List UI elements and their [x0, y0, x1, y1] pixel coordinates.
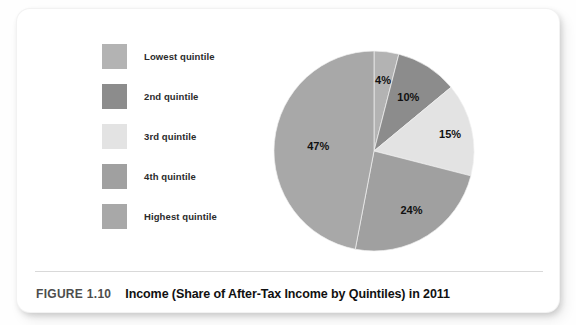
figure-caption: FIGURE 1.10 Income (Share of After-Tax I… [36, 281, 546, 307]
pie-slice-value-label: 24% [400, 204, 422, 216]
legend-swatch-icon [102, 44, 127, 69]
chart-area: Lowest quintile 2nd quintile 3rd quintil… [17, 9, 559, 267]
legend-item-4th-quintile[interactable]: 4th quintile [102, 156, 262, 196]
pie-slice-value-label: 4% [375, 74, 391, 86]
legend-item-2nd-quintile[interactable]: 2nd quintile [102, 76, 262, 116]
figure-page: Lowest quintile 2nd quintile 3rd quintil… [0, 0, 576, 325]
pie-slice-value-label: 10% [397, 91, 419, 103]
legend-swatch-icon [102, 84, 127, 109]
legend-item-lowest-quintile[interactable]: Lowest quintile [102, 36, 262, 76]
pie-chart: 4%10%15%24%47% [273, 35, 475, 267]
chart-legend: Lowest quintile 2nd quintile 3rd quintil… [102, 36, 262, 236]
legend-item-label: 4th quintile [144, 171, 196, 182]
pie-slice-value-label: 15% [439, 128, 461, 140]
figure-card: Lowest quintile 2nd quintile 3rd quintil… [17, 9, 559, 312]
pie-slice-group [274, 51, 474, 251]
figure-number: FIGURE 1.10 [36, 287, 111, 301]
legend-swatch-icon [102, 164, 127, 189]
legend-item-label: Highest quintile [144, 211, 217, 222]
legend-item-label: 2nd quintile [144, 91, 199, 102]
caption-divider [35, 271, 543, 272]
figure-title: Income (Share of After-Tax Income by Qui… [125, 287, 449, 301]
legend-item-label: Lowest quintile [144, 51, 215, 62]
legend-item-label: 3rd quintile [144, 131, 196, 142]
pie-slice-value-label: 47% [307, 140, 329, 152]
legend-swatch-icon [102, 204, 127, 229]
legend-swatch-icon [102, 124, 127, 149]
legend-item-3rd-quintile[interactable]: 3rd quintile [102, 116, 262, 156]
pie-chart-svg: 4%10%15%24%47% [273, 35, 475, 267]
legend-item-highest-quintile[interactable]: Highest quintile [102, 196, 262, 236]
